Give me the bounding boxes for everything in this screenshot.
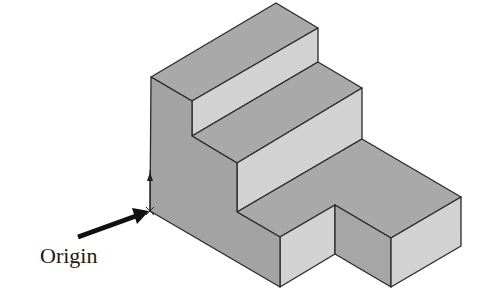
origin-label: Origin <box>40 245 97 267</box>
origin-arrow-icon <box>78 208 149 237</box>
part-faces <box>150 3 461 287</box>
